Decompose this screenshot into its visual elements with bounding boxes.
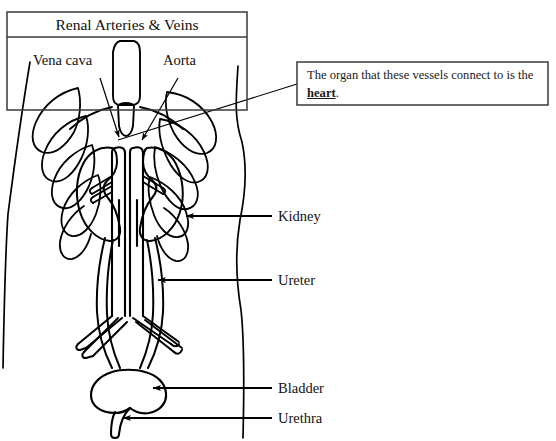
aorta-label: Aorta xyxy=(163,52,196,69)
bladder-label: Bladder xyxy=(278,380,324,397)
diagram-canvas: Renal Arteries & Veins Vena cava Aorta T… xyxy=(0,0,556,441)
iliac-bifurcation xyxy=(76,316,182,358)
leader-line-vena-cava xyxy=(100,78,119,137)
leader-line-callout xyxy=(118,84,297,140)
vena-cava-label: Vena cava xyxy=(33,52,92,69)
rib-cage-right xyxy=(149,92,217,261)
callout-text-before: The organ that these vessels connect to … xyxy=(307,68,533,82)
ureter-label: Ureter xyxy=(278,272,315,289)
great-vessels xyxy=(112,147,143,316)
renal-vessels xyxy=(90,176,166,203)
callout-text-after: . xyxy=(336,86,339,100)
callout-emphasis-heart: heart xyxy=(307,86,336,100)
bladder xyxy=(91,370,166,414)
urethra-label: Urethra xyxy=(278,410,322,427)
title-box-heading: Renal Arteries & Veins xyxy=(7,16,247,34)
kidney-label: Kidney xyxy=(278,208,321,225)
callout-body: The organ that these vessels connect to … xyxy=(307,67,541,103)
